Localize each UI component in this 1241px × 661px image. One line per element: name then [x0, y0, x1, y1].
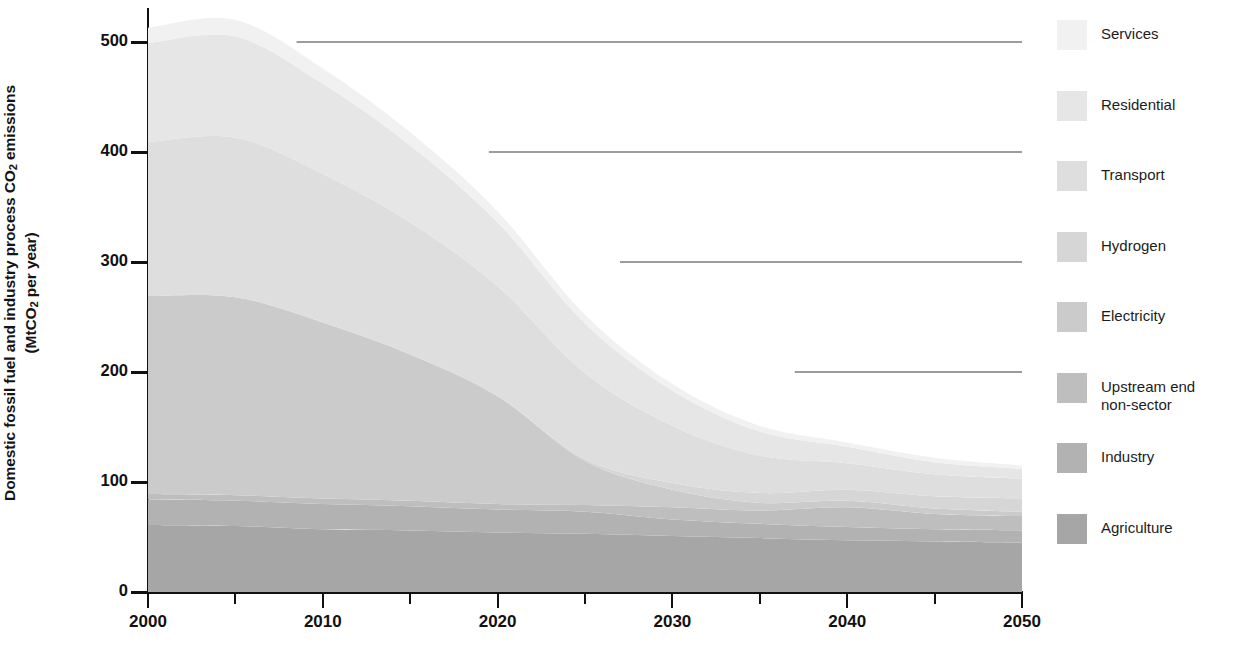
x-tick-2025	[584, 594, 586, 604]
y-axis-ticks: 0100200300400500	[70, 0, 148, 600]
legend-item-industry[interactable]: Industry	[1057, 443, 1154, 473]
legend-label: Industry	[1101, 443, 1154, 466]
y-axis-title-text-a: Domestic fossil fuel and industry proces…	[1, 170, 18, 501]
y-axis-units-a: (MtCO	[22, 307, 39, 353]
y-axis-title: Domestic fossil fuel and industry proces…	[0, 0, 42, 586]
y-tick-mark	[131, 481, 148, 484]
x-tick-2035	[759, 594, 761, 604]
x-tick-2045	[934, 594, 936, 604]
legend-swatch-icon	[1057, 514, 1087, 544]
x-tick-label: 2050	[1003, 612, 1041, 632]
x-tick-label: 2040	[828, 612, 866, 632]
legend-label: Agriculture	[1101, 514, 1173, 537]
x-tick-label: 2000	[129, 612, 167, 632]
legend-label: Hydrogen	[1101, 232, 1166, 255]
y-tick-mark	[131, 261, 148, 264]
legend-swatch-icon	[1057, 20, 1087, 50]
y-axis-title-subscript-a: 2	[7, 164, 19, 170]
x-tick-2030	[671, 594, 673, 608]
legend-swatch-icon	[1057, 161, 1087, 191]
y-tick-label: 400	[100, 141, 128, 160]
stacked-area-chart	[148, 8, 1022, 592]
y-axis-title-wrapper: Domestic fossil fuel and industry proces…	[0, 0, 72, 600]
legend-item-upstream-end-non-sector[interactable]: Upstream end non-sector	[1057, 373, 1195, 414]
y-tick-mark	[131, 41, 148, 44]
x-tick-2015	[409, 594, 411, 604]
y-tick-label: 100	[100, 471, 128, 490]
legend-label: Upstream end non-sector	[1101, 373, 1195, 414]
y-tick-label: 500	[100, 31, 128, 50]
y-axis-units-subscript: 2	[29, 301, 41, 307]
y-axis-units-b: per year)	[22, 233, 39, 302]
y-tick-label: 200	[100, 361, 128, 380]
legend-swatch-icon	[1057, 232, 1087, 262]
legend-swatch-icon	[1057, 443, 1087, 473]
y-tick-label: 0	[119, 581, 128, 600]
legend-item-hydrogen[interactable]: Hydrogen	[1057, 232, 1166, 262]
legend-swatch-icon	[1057, 91, 1087, 121]
y-tick-mark	[131, 151, 148, 154]
legend-item-electricity[interactable]: Electricity	[1057, 302, 1165, 332]
y-tick-mark	[131, 591, 148, 594]
legend-label: Electricity	[1101, 302, 1165, 325]
x-tick-label: 2030	[653, 612, 691, 632]
y-axis-title-line2: (MtCO2 per year)	[21, 0, 42, 586]
x-tick-label: 2010	[304, 612, 342, 632]
legend-item-residential[interactable]: Residential	[1057, 91, 1175, 121]
x-tick-label: 2020	[479, 612, 517, 632]
x-tick-2020	[497, 594, 499, 608]
y-axis-title-line1: Domestic fossil fuel and industry proces…	[1, 85, 18, 501]
legend-item-services[interactable]: Services	[1057, 20, 1159, 50]
x-tick-2000	[147, 594, 149, 608]
y-axis-title-text-b: emissions	[1, 85, 18, 164]
x-tick-2050	[1021, 594, 1023, 608]
legend-swatch-icon	[1057, 302, 1087, 332]
y-tick-mark	[131, 371, 148, 374]
x-tick-2005	[234, 594, 236, 604]
chart-figure: Domestic fossil fuel and industry proces…	[0, 0, 1241, 661]
x-tick-2040	[846, 594, 848, 608]
legend-item-transport[interactable]: Transport	[1057, 161, 1165, 191]
legend-label: Residential	[1101, 91, 1175, 114]
legend-label: Services	[1101, 20, 1159, 43]
plot-area	[148, 8, 1022, 592]
legend-swatch-icon	[1057, 373, 1087, 403]
legend-item-agriculture[interactable]: Agriculture	[1057, 514, 1173, 544]
y-tick-label: 300	[100, 251, 128, 270]
legend-label: Transport	[1101, 161, 1165, 184]
x-tick-2010	[322, 594, 324, 608]
